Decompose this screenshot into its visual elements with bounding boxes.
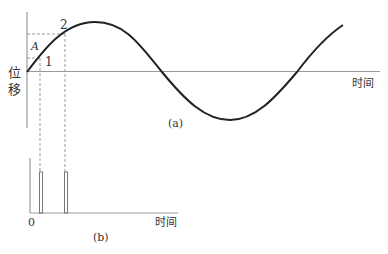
pulse-2 [65,172,68,213]
y-axis-label-1: 位 [8,65,21,80]
caption-a: (a) [168,117,183,130]
a-x-axis-label: 时间 [352,77,374,90]
b-origin-label: 0 [28,216,35,229]
y-axis-label-2: 移 [8,82,21,97]
b-x-axis-label: 时间 [155,216,177,229]
pulse-1 [40,172,43,213]
label-amplitude: A [30,40,39,53]
caption-b: (b) [93,231,109,244]
label-point-1: 1 [45,55,53,69]
label-point-2: 2 [60,18,68,32]
diagram-canvas: 2 A 1 位 移 时间 (a) 0 时间 (b) [0,0,388,254]
